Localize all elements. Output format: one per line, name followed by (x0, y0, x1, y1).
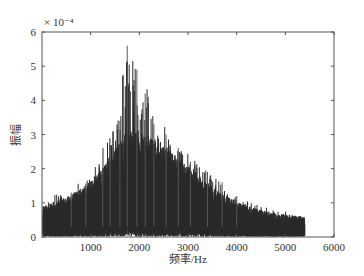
y-tick-label: 1 (31, 197, 37, 209)
spectrum-series (43, 46, 305, 237)
y-exponent-label: × 10⁻⁴ (44, 16, 74, 28)
y-tick-label: 6 (31, 26, 37, 38)
x-tick-label: 5000 (274, 241, 297, 253)
y-axis-label: 振幅 (9, 124, 22, 146)
x-tick-label: 1000 (80, 241, 103, 253)
x-tick-label: 2000 (128, 241, 151, 253)
y-tick-label: 2 (31, 163, 37, 175)
x-tick-label: 6000 (323, 241, 346, 253)
y-tick-label: 4 (31, 94, 37, 106)
x-tick-label: 4000 (226, 241, 249, 253)
y-tick-label: 5 (31, 60, 37, 72)
x-axis-label: 频率/Hz (169, 252, 207, 265)
y-tick-label: 3 (31, 129, 37, 141)
spectrum-chart: 1000200030004000500060000123456 × 10⁻⁴ 频… (0, 0, 364, 276)
x-tick-label: 3000 (177, 241, 200, 253)
y-tick-label: 0 (31, 231, 37, 243)
